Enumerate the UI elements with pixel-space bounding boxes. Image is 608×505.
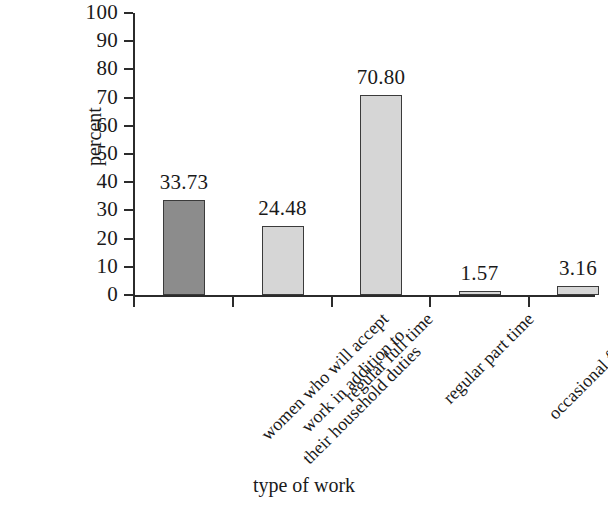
x-axis-tick bbox=[232, 297, 234, 307]
bar bbox=[163, 200, 205, 295]
y-axis-tick bbox=[124, 125, 133, 127]
y-axis-tick bbox=[124, 153, 133, 155]
bar-value-label: 33.73 bbox=[139, 172, 229, 193]
bar bbox=[262, 226, 304, 295]
y-axis-tick bbox=[124, 40, 133, 42]
bar-chart: 1009080706050403020100 percent 33.73wome… bbox=[0, 0, 608, 505]
x-axis-tick bbox=[528, 297, 530, 307]
y-axis-tick bbox=[124, 181, 133, 183]
y-axis-tick-label: 20 bbox=[58, 228, 118, 249]
x-axis-title: type of work bbox=[0, 474, 608, 497]
x-axis-label-line: regular part time bbox=[438, 308, 539, 409]
y-axis-line bbox=[133, 13, 135, 297]
x-axis-tick bbox=[331, 297, 333, 307]
y-axis-tick bbox=[124, 12, 133, 14]
bar-value-label: 1.57 bbox=[435, 263, 525, 284]
x-axis-label-line: occasional full time bbox=[543, 308, 608, 425]
x-axis-line bbox=[133, 295, 595, 297]
bar bbox=[557, 286, 599, 295]
y-axis-tick bbox=[124, 238, 133, 240]
y-axis-tick bbox=[124, 209, 133, 211]
x-axis-tick bbox=[429, 297, 431, 307]
bar-value-label: 24.48 bbox=[238, 198, 328, 219]
y-axis-tick bbox=[124, 68, 133, 70]
x-axis-category-label: regular part time bbox=[438, 308, 539, 409]
x-axis-category-label: occasional full time bbox=[543, 308, 608, 425]
bar-value-label: 70.80 bbox=[336, 67, 426, 88]
y-axis-title: percent bbox=[83, 92, 106, 182]
bar bbox=[459, 291, 501, 295]
x-axis-tick bbox=[133, 297, 135, 307]
bar-value-label: 3.16 bbox=[533, 258, 608, 279]
y-axis-tick-label: 0 bbox=[58, 284, 118, 305]
y-axis-tick-label: 80 bbox=[58, 58, 118, 79]
y-axis-tick-label: 30 bbox=[58, 199, 118, 220]
y-axis-tick bbox=[124, 294, 133, 296]
y-axis-tick-label: 10 bbox=[58, 256, 118, 277]
y-axis-tick bbox=[124, 266, 133, 268]
y-axis-tick-label: 90 bbox=[58, 30, 118, 51]
bar bbox=[360, 95, 402, 295]
y-axis-tick-label: 100 bbox=[58, 2, 118, 23]
y-axis-tick bbox=[124, 97, 133, 99]
